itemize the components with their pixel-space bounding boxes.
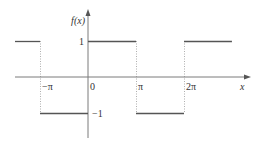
y-tick-label: −1 bbox=[92, 108, 103, 119]
x-tick-label: 0 bbox=[90, 81, 95, 92]
x-tick-label: π bbox=[138, 81, 143, 92]
x-tick-label: 2π bbox=[186, 81, 196, 92]
x-axis-arrow-icon bbox=[244, 75, 251, 80]
x-axis-label: x bbox=[239, 81, 245, 92]
square-wave-chart: −π0π2π 1−1 x f(x) bbox=[0, 0, 266, 142]
x-tick-label: −π bbox=[42, 81, 53, 92]
x-tick-labels: −π0π2π bbox=[42, 81, 196, 92]
y-axis-arrow-icon bbox=[86, 9, 91, 16]
y-tick-label: 1 bbox=[79, 36, 84, 47]
y-axis-label: f(x) bbox=[71, 15, 86, 27]
